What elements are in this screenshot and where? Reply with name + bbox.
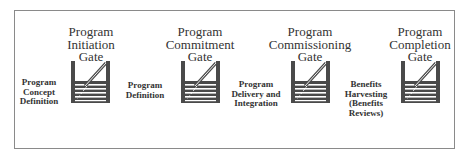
gate-icon bbox=[71, 61, 111, 103]
gate-icon bbox=[181, 61, 221, 103]
stage-program-concept-definition: Program Concept Definition bbox=[16, 78, 62, 107]
stage-label-line: Integration bbox=[228, 99, 284, 109]
gate-title-commitment: Program Commitment Gate bbox=[155, 26, 245, 64]
stage-label-line: Reviews) bbox=[344, 109, 388, 119]
stage-program-definition: Program Definition bbox=[123, 81, 167, 100]
gate-icon bbox=[401, 61, 441, 103]
stage-label-line: Definition bbox=[123, 91, 167, 101]
stage-benefits-harvesting: Benefits Harvesting (Benefits Reviews) bbox=[344, 80, 388, 118]
gate-title-commissioning: Program Commissioning Gate bbox=[265, 26, 355, 64]
gate-icon bbox=[291, 61, 331, 103]
stage-label-line: Definition bbox=[16, 97, 62, 107]
stage-program-delivery-integration: Program Delivery and Integration bbox=[228, 80, 284, 109]
gate-title-completion: Program Completion Gate bbox=[375, 26, 465, 64]
gate-title-initiation: Program Initiation Gate bbox=[46, 26, 136, 64]
